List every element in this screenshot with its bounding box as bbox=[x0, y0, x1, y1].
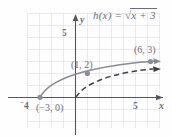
graph-figure: h(x) = √x + 3 y x 5 5 −4 (−3, 0) (1, 2) … bbox=[0, 0, 172, 138]
curve-solid-arrow bbox=[154, 58, 162, 64]
y-tick-label-5: 5 bbox=[62, 29, 67, 39]
equation-label: h(x) = √x + 3 bbox=[93, 10, 157, 21]
point-6-3 bbox=[148, 59, 153, 64]
equation-lhs: h(x) = bbox=[93, 9, 125, 21]
x-tick-label-minus4: −4 bbox=[20, 100, 29, 112]
curve-solid-h bbox=[40, 61, 154, 97]
point-1-2 bbox=[85, 71, 90, 76]
annotation-point-1-2: (1, 2) bbox=[71, 60, 93, 70]
y-axis-arrow bbox=[73, 14, 79, 21]
point-minus3-0 bbox=[37, 95, 42, 100]
radicand: x + 3 bbox=[130, 8, 156, 21]
x-tick-label-5: 5 bbox=[133, 102, 138, 112]
annotation-point-minus3-0: (−3, 0) bbox=[36, 103, 63, 113]
x-axis-label: x bbox=[159, 101, 164, 111]
annotation-point-6-3: (6, 3) bbox=[134, 45, 156, 55]
y-axis-label: y bbox=[80, 15, 84, 25]
